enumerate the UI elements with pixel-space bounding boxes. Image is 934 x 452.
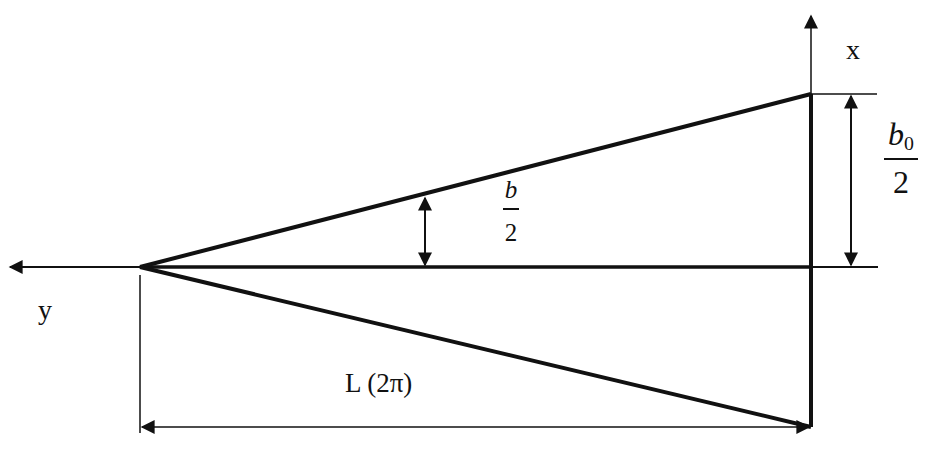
local-halfwidth-label: b 2 bbox=[503, 177, 519, 245]
length-label: L (2π) bbox=[345, 370, 412, 397]
triangle-lower-edge bbox=[140, 267, 811, 427]
y-axis-label: y bbox=[38, 296, 52, 324]
root-halfwidth-denominator: 2 bbox=[893, 166, 909, 198]
fraction-bar bbox=[884, 158, 918, 160]
root-halfwidth-numerator: b bbox=[888, 116, 904, 152]
local-halfwidth-denominator: 2 bbox=[505, 220, 518, 245]
fraction-bar bbox=[503, 208, 519, 210]
triangle-diagram bbox=[0, 0, 934, 452]
triangle-upper-edge bbox=[140, 94, 811, 267]
x-axis-label: x bbox=[846, 36, 860, 64]
root-halfwidth-subscript: 0 bbox=[904, 132, 914, 154]
root-halfwidth-label: b0 2 bbox=[884, 118, 918, 198]
local-halfwidth-numerator: b bbox=[505, 177, 518, 202]
